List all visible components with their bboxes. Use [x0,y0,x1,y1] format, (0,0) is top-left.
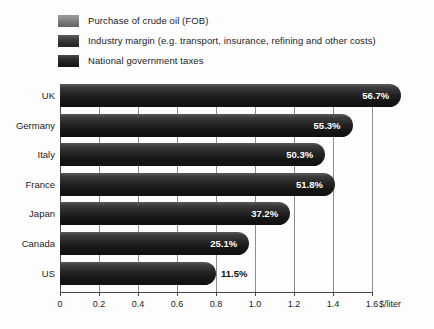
bar-segment-government-taxes [60,114,353,137]
bar-value-label: 55.3% [314,114,341,137]
x-axis-line [60,292,373,293]
bar-value-label: 37.2% [251,202,278,225]
category-label-us: US [0,262,55,285]
legend-label-industry-margin: Industry margin (e.g. transport, insuran… [88,35,376,47]
x-axis-tick-label: 0.6 [171,299,184,309]
legend-item-industry-margin: Industry margin (e.g. transport, insuran… [58,32,428,50]
bar-value-label: 25.1% [210,232,237,255]
category-label-uk: UK [0,84,55,107]
bar-segment-government-taxes [60,84,401,107]
bar-value-label: 56.7% [362,84,389,107]
bar-segment-government-taxes [60,262,216,285]
bar-value-label: 11.5% [221,262,247,285]
bar-segment-government-taxes [60,173,335,196]
legend-label-government-taxes: National government taxes [88,55,204,67]
x-axis-unit-label: $/liter [379,299,401,309]
bar-value-label: 51.8% [296,173,323,196]
bar-value-label: 50.3% [286,143,313,166]
category-label-italy: Italy [0,143,55,166]
category-label-canada: Canada [0,232,55,255]
bars-container: 56.7%55.3%50.3%51.8%37.2%25.1%11.5% [60,84,434,292]
x-axis-tick-label: 1.0 [249,299,262,309]
x-axis-tick-label: 0 [57,299,62,309]
legend-item-government-taxes: National government taxes [58,52,428,70]
legend-swatch-government-taxes-icon [58,55,79,67]
x-axis-tick-label: 0.2 [93,299,106,309]
x-axis-tick-label: 1.2 [288,299,301,309]
x-axis-tick-label: 0.8 [210,299,223,309]
chart-legend: Purchase of crude oil (FOB) Industry mar… [58,12,428,72]
legend-swatch-industry-margin-icon [58,35,79,47]
legend-item-crude-oil: Purchase of crude oil (FOB) [58,12,428,30]
x-axis-tick-label: 1.6 [366,299,379,309]
plot-area: 56.7%55.3%50.3%51.8%37.2%25.1%11.5% [60,84,372,292]
category-label-japan: Japan [0,202,55,225]
chart-page: Purchase of crude oil (FOB) Industry mar… [0,0,434,329]
category-label-france: France [0,173,55,196]
x-axis-tick-label: 1.4 [327,299,340,309]
x-axis-tick-label: 0.4 [132,299,145,309]
category-axis: UKGermanyItalyFranceJapanCanadaUS [0,84,55,292]
legend-label-crude-oil: Purchase of crude oil (FOB) [88,15,208,27]
legend-swatch-crude-oil-icon [58,15,79,27]
category-label-germany: Germany [0,114,55,137]
